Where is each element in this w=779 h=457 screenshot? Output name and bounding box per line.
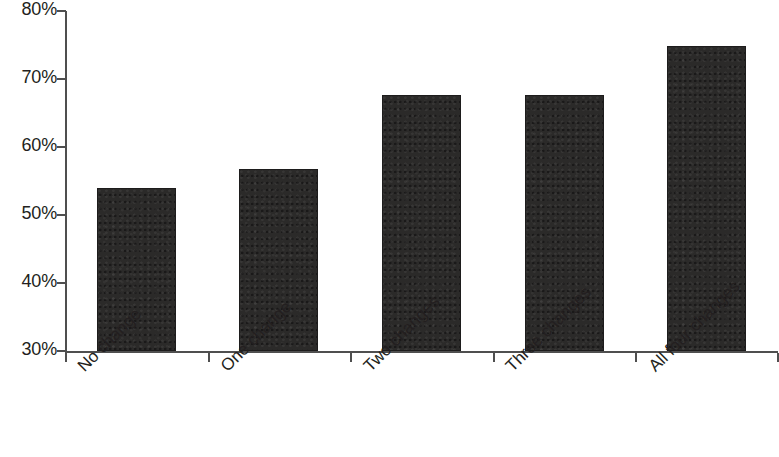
y-axis-tick-label: 40%: [5, 271, 65, 292]
y-axis-tick-label: 50%: [5, 203, 65, 224]
x-axis-tick: [65, 353, 67, 362]
y-axis-tick-label: 60%: [5, 135, 65, 156]
y-axis-tick-label: 30%: [5, 339, 65, 360]
x-axis-tick: [208, 353, 210, 362]
x-axis-tick: [350, 353, 352, 362]
y-axis-tick-label: 70%: [5, 67, 65, 88]
x-axis-tick: [493, 353, 495, 362]
y-axis-tick-label: 80%: [5, 0, 65, 20]
bar-chart: 30%40%50%60%70%80% No changeOne changeTw…: [0, 0, 779, 457]
y-axis-line: [65, 11, 67, 352]
x-axis-tick: [635, 353, 637, 362]
